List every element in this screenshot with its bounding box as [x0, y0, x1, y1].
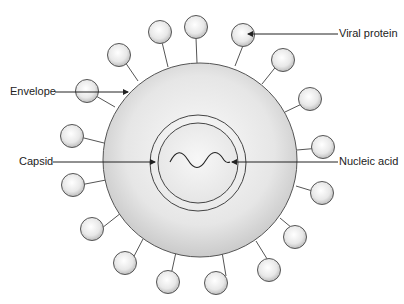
viral-protein: [311, 182, 334, 205]
label-nucleic-acid: Nucleic acid: [339, 155, 398, 167]
viral-protein: [114, 252, 137, 275]
viral-protein: [76, 80, 99, 103]
viral-protein: [81, 218, 104, 241]
viral-protein: [108, 44, 131, 67]
label-capsid: Capsid: [19, 155, 53, 167]
viral-protein: [157, 271, 180, 294]
virus-diagram: [0, 0, 404, 304]
label-envelope: Envelope: [10, 85, 56, 97]
viral-protein: [284, 226, 307, 249]
viral-protein: [185, 16, 208, 39]
viral-protein: [232, 24, 255, 47]
viral-protein: [61, 125, 84, 148]
viral-protein: [312, 136, 335, 159]
viral-protein: [299, 88, 322, 111]
viral-protein: [62, 174, 85, 197]
viral-protein: [205, 272, 228, 295]
viral-protein: [272, 49, 295, 72]
viral-protein: [258, 259, 281, 282]
label-viral-protein: Viral protein: [339, 27, 398, 39]
capsid: [158, 123, 238, 203]
viral-protein: [149, 21, 172, 44]
